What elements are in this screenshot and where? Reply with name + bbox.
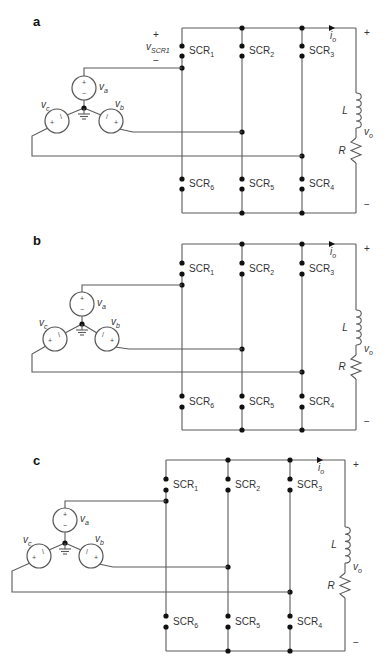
vb-label: vb <box>115 98 124 111</box>
rail-node <box>299 241 304 246</box>
rail-node <box>239 427 244 432</box>
scr-bottom-label-main: SCR <box>189 396 210 407</box>
io-label: io <box>330 30 336 43</box>
io-label: io <box>330 246 336 259</box>
inductor-icon: L <box>331 527 350 563</box>
scr-top-label-main: SCR <box>189 263 210 274</box>
scr-bottom-label: SCR6 <box>173 616 198 629</box>
io-label-subscript: o <box>320 468 324 475</box>
scr-top-label-subscript: 3 <box>330 269 334 276</box>
minus-sign: \ <box>42 548 44 555</box>
rail-node <box>299 210 304 215</box>
vo-label-subscript: o <box>358 567 362 574</box>
scr-top-label: SCR1 <box>189 45 214 58</box>
vb-label-subscript: b <box>116 322 120 329</box>
scr-bottom-label-main: SCR <box>235 616 256 627</box>
resistor-zigzag <box>351 355 361 379</box>
vc-label: vc <box>41 99 50 112</box>
panel-c: cSCR1SCR6SCR2SCR5SCR3SCR4+−va+\vc+/vbioL… <box>12 453 362 654</box>
inductor-label: L <box>342 322 348 333</box>
scr-4: SCR4 <box>299 176 334 191</box>
scr-2: SCR2 <box>239 260 274 276</box>
scr-terminal <box>287 487 292 492</box>
vscr1-text: vSCR1 <box>146 41 170 54</box>
scr-bottom-label-subscript: 4 <box>330 402 334 409</box>
scr-terminal <box>163 613 168 618</box>
scr-top-label: SCR1 <box>189 263 214 276</box>
scr-bottom-label: SCR5 <box>249 178 274 191</box>
vo-label: vo <box>364 126 373 139</box>
va-label: va <box>80 513 89 526</box>
ac-source-icon <box>45 109 69 133</box>
scr-terminal <box>163 487 168 492</box>
scr-top-label-main: SCR <box>173 479 194 490</box>
scr-top-label-subscript: 2 <box>270 269 274 276</box>
scr-terminal <box>239 186 244 191</box>
minus-sign: / <box>86 548 88 555</box>
vscr1-text-subscript: SCR1 <box>151 47 170 54</box>
vo-label: vo <box>353 561 362 574</box>
scr-terminal <box>225 476 230 481</box>
phase-a-wire <box>65 501 166 508</box>
scr-3: SCR3 <box>299 260 334 276</box>
inductor-icon: L <box>342 93 361 128</box>
scr-terminal <box>163 624 168 629</box>
vc-label: vc <box>23 534 32 547</box>
inductor-coil <box>356 310 361 345</box>
scr-bottom-label-subscript: 4 <box>330 184 334 191</box>
rail-node <box>239 25 244 30</box>
scr-terminal <box>287 613 292 618</box>
va-label-subscript: a <box>85 519 89 526</box>
plus-sign: + <box>32 554 36 561</box>
scr-terminal <box>179 393 184 398</box>
scr-bottom-label-subscript: 6 <box>210 184 214 191</box>
scr-terminal <box>179 43 184 48</box>
scr-bottom-label-main: SCR <box>309 178 330 189</box>
scr-6: SCR6 <box>163 613 198 629</box>
plus-sign: + <box>94 554 98 561</box>
plus-sign: + <box>82 79 86 86</box>
scr-bottom-label: SCR5 <box>249 396 274 409</box>
scr-top-label: SCR2 <box>249 45 274 58</box>
scr-terminal <box>287 476 292 481</box>
scr-2: SCR2 <box>239 43 274 58</box>
plus-sign: + <box>48 337 52 344</box>
scr-top-label-subscript: 3 <box>318 485 322 492</box>
vb-label: vb <box>111 316 120 329</box>
source-va: +−va <box>72 76 108 100</box>
scr-4: SCR4 <box>299 393 334 409</box>
vo-label: vo <box>364 343 373 356</box>
scr-bottom-label-main: SCR <box>249 178 270 189</box>
minus-sign: − <box>80 306 84 313</box>
output-plus-sign: + <box>353 459 359 470</box>
scr-5: SCR5 <box>225 613 260 629</box>
scr-terminal <box>299 404 304 409</box>
minus-sign: / <box>106 113 108 120</box>
scr-top-label: SCR3 <box>297 479 322 492</box>
resistor-icon: R <box>338 138 361 163</box>
scr-3: SCR3 <box>287 476 322 492</box>
scr-terminal <box>239 53 244 58</box>
scr-top-label-subscript: 1 <box>210 269 214 276</box>
plus-sign: + <box>80 295 84 302</box>
scr-top-label-subscript: 1 <box>210 51 214 58</box>
scr-terminal <box>287 624 292 629</box>
inductor-coil <box>345 527 350 563</box>
scr-top-label-main: SCR <box>309 263 330 274</box>
scr-top-label-subscript: 1 <box>194 485 198 492</box>
plus-sign: + <box>63 511 67 518</box>
scr-top-label-main: SCR <box>235 479 256 490</box>
plus-sign: + <box>50 119 54 126</box>
scr-bottom-label: SCR6 <box>189 178 214 191</box>
scr-terminal <box>179 176 184 181</box>
source-vc: +\vc <box>39 317 67 351</box>
scr-top-label: SCR3 <box>309 263 334 276</box>
resistor-zigzag <box>340 573 350 598</box>
neutral-wire <box>65 324 82 333</box>
ac-source-icon <box>43 327 67 351</box>
scr-terminal <box>299 176 304 181</box>
panel-letter: c <box>33 453 40 468</box>
scr-bottom-label: SCR4 <box>309 178 334 191</box>
scr-1: SCR1 <box>163 476 198 492</box>
panel-b: bSCR1SCR6SCR2SCR5SCR3SCR4+−va+\vc+/vbioL… <box>32 233 373 433</box>
